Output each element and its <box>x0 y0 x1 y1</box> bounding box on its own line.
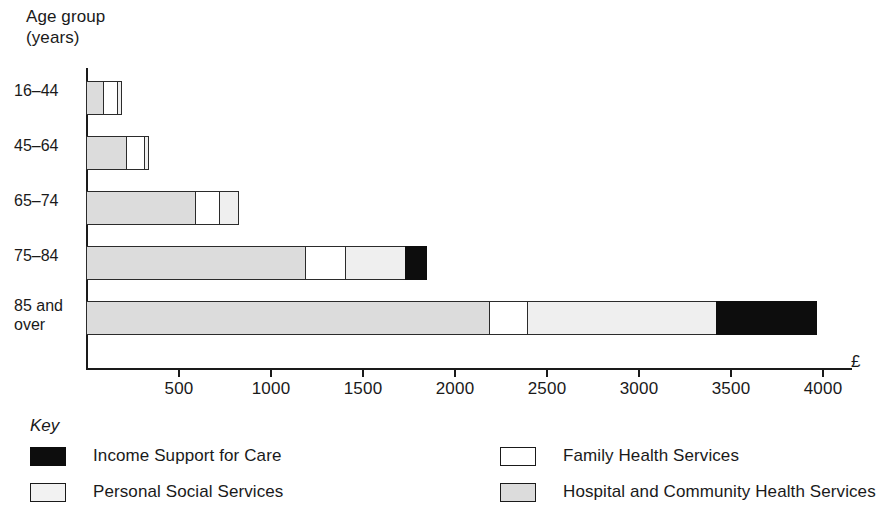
bar-row <box>86 301 817 335</box>
bar-segment <box>489 301 529 335</box>
legend-label: Personal Social Services <box>93 482 283 502</box>
x-tick-label: 3500 <box>712 379 751 399</box>
legend-swatch-icon <box>500 483 536 502</box>
bar-segment <box>86 191 196 225</box>
legend-swatch-icon <box>30 447 66 466</box>
x-tick-label: 1500 <box>344 379 383 399</box>
x-tick-label: 3000 <box>620 379 659 399</box>
bar-segment <box>86 81 104 115</box>
bar-row <box>86 136 149 170</box>
plot-area: 500 1000 1500 2000 2500 3000 3500 4000 <box>86 68 826 370</box>
x-tick <box>178 368 180 377</box>
category-label-16-44: 16–44 <box>14 82 86 100</box>
legend-swatch-icon <box>500 447 536 466</box>
legend-item-income-support: Income Support for Care <box>30 446 281 466</box>
legend-swatch-icon <box>30 483 66 502</box>
category-label-85-and-over: 85 and over <box>14 296 86 334</box>
bar-segment <box>117 81 123 115</box>
legend: Income Support for Care Personal Social … <box>30 446 875 518</box>
x-tick <box>362 368 364 377</box>
bar-segment <box>144 136 150 170</box>
bar-row <box>86 81 122 115</box>
chart-root: Age group (years) 16–44 45–64 65–74 75–8… <box>0 0 887 531</box>
category-label-45-64: 45–64 <box>14 137 86 155</box>
bar-segment <box>716 301 817 335</box>
bar-row <box>86 191 239 225</box>
x-tick-label: 2500 <box>528 379 567 399</box>
bar-segment <box>305 246 346 280</box>
x-tick <box>822 368 824 377</box>
x-axis-extension <box>826 368 852 370</box>
bar-segment <box>126 136 145 170</box>
bar-segment <box>345 246 407 280</box>
x-tick-label: 2000 <box>436 379 475 399</box>
x-tick <box>454 368 456 377</box>
legend-item-personal-social-services: Personal Social Services <box>30 482 283 502</box>
x-tick-label: 500 <box>165 379 194 399</box>
category-label-75-84: 75–84 <box>14 247 86 265</box>
bar-segment <box>405 246 427 280</box>
legend-item-hospital-community: Hospital and Community Health Services <box>500 482 876 502</box>
bar-segment <box>219 191 239 225</box>
x-tick <box>730 368 732 377</box>
bar-segment <box>527 301 717 335</box>
legend-label: Hospital and Community Health Services <box>563 482 876 502</box>
legend-label: Income Support for Care <box>93 446 281 466</box>
bar-segment <box>86 246 307 280</box>
x-tick-label: 4000 <box>804 379 843 399</box>
legend-label: Family Health Services <box>563 446 739 466</box>
category-label-65-74: 65–74 <box>14 192 86 210</box>
x-tick <box>638 368 640 377</box>
x-tick-label: 1000 <box>252 379 291 399</box>
bar-row <box>86 246 427 280</box>
y-axis-title: Age group (years) <box>26 6 105 48</box>
bar-segment <box>195 191 221 225</box>
x-tick <box>546 368 548 377</box>
category-label-group: 16–44 45–64 65–74 75–84 85 and over <box>14 68 78 370</box>
key-title: Key <box>30 416 59 436</box>
bar-segment <box>86 301 491 335</box>
bar-segment <box>86 136 127 170</box>
x-tick <box>270 368 272 377</box>
legend-item-family-health-services: Family Health Services <box>500 446 739 466</box>
x-axis-line <box>86 368 826 370</box>
x-axis-unit-label: £ <box>851 352 860 372</box>
